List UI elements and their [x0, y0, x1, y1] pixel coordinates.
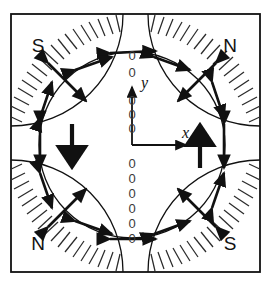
- pole-label-top-left: S: [32, 35, 45, 56]
- x-axis-label: x: [181, 124, 189, 141]
- out-of-page-field-markers: 0 0 0 0 0 0 0 0 0 0 0: [128, 48, 135, 246]
- coordinate-axes: [132, 87, 186, 145]
- magnetic-domain-figure: 0 0 0 0 0 0 0 0 0 0 0 x y S N N S: [0, 0, 273, 295]
- zero-marker: 0: [128, 48, 135, 63]
- pole-label-top-right: N: [223, 35, 237, 56]
- zero-marker: 0: [128, 216, 135, 231]
- y-axis-label: y: [139, 74, 149, 92]
- zero-marker: 0: [128, 121, 135, 136]
- zero-marker: 0: [128, 201, 135, 216]
- zero-marker: 0: [128, 156, 135, 171]
- pole-label-bottom-left: N: [31, 233, 45, 254]
- zero-marker: 0: [128, 186, 135, 201]
- zero-marker: 0: [128, 65, 135, 80]
- corner-arc-top-left: [9, 14, 123, 126]
- zero-marker: 0: [128, 231, 135, 246]
- zero-marker: 0: [128, 171, 135, 186]
- figure-canvas: 0 0 0 0 0 0 0 0 0 0 0 x y S N N S: [0, 0, 273, 295]
- bulk-domain-arrows: [72, 124, 200, 168]
- corner-arc-bottom-left: [9, 160, 123, 272]
- pole-label-bottom-right: S: [224, 233, 237, 254]
- corner-arc-top-right: [148, 14, 262, 126]
- zero-marker: 0: [128, 107, 135, 122]
- zero-marker: 0: [128, 93, 135, 108]
